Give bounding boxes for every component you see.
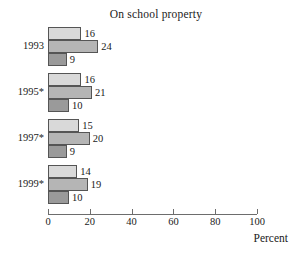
bar [48, 27, 81, 40]
bar-value-label: 9 [70, 146, 75, 157]
bar-value-label: 24 [101, 41, 112, 52]
x-axis-tick-label: 60 [158, 216, 188, 227]
bar-value-label: 10 [72, 100, 83, 111]
x-axis-tick-label: 100 [242, 216, 272, 227]
x-axis-tick-label: 20 [75, 216, 105, 227]
bar [48, 165, 77, 178]
x-axis-tick [173, 209, 174, 214]
x-axis-tick-label: 0 [33, 216, 63, 227]
bar [48, 53, 67, 66]
y-axis-category-label: 1997* [0, 132, 44, 143]
bar-value-label: 21 [95, 87, 106, 98]
bar [48, 191, 69, 204]
x-axis-tick [257, 209, 258, 214]
y-axis-category-label: 1993 [0, 40, 44, 51]
x-axis-tick [132, 209, 133, 214]
bar-value-label: 14 [80, 166, 91, 177]
plot-area: 0204060801001993162491995*1621101997*152… [0, 0, 300, 260]
y-axis-category-label: 1995* [0, 86, 44, 97]
x-axis-line [48, 214, 257, 215]
bar-value-label: 19 [91, 179, 102, 190]
x-axis-tick-label: 80 [200, 216, 230, 227]
bar-value-label: 16 [84, 74, 95, 85]
bar-value-label: 15 [82, 120, 93, 131]
x-axis-title: Percent [0, 232, 288, 244]
bar-value-label: 20 [93, 133, 104, 144]
x-axis-tick [215, 209, 216, 214]
x-axis-tick [90, 209, 91, 214]
bar [48, 178, 88, 191]
x-axis-tick-label: 40 [117, 216, 147, 227]
bar-value-label: 10 [72, 192, 83, 203]
y-axis-category-label: 1999* [0, 178, 44, 189]
bar-value-label: 9 [70, 54, 75, 65]
bar [48, 119, 79, 132]
chart-container: On school property 020406080100199316249… [0, 0, 300, 260]
bar [48, 86, 92, 99]
bar [48, 132, 90, 145]
bar [48, 40, 98, 53]
bar [48, 99, 69, 112]
bar-value-label: 16 [84, 28, 95, 39]
x-axis-tick [48, 209, 49, 214]
bar [48, 145, 67, 158]
bar [48, 73, 81, 86]
